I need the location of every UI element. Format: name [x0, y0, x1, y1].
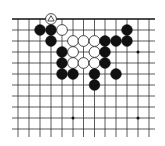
black-stone [46, 25, 57, 36]
black-stone [57, 58, 68, 69]
white-stone [89, 36, 100, 47]
black-stone [57, 69, 68, 80]
black-stone [46, 36, 57, 47]
black-stone [68, 69, 79, 80]
white-stone [89, 58, 100, 69]
white-stone [57, 25, 68, 36]
white-stone [89, 47, 100, 58]
black-stone [89, 69, 100, 80]
black-stone [122, 25, 133, 36]
white-stone [68, 58, 79, 69]
go-board [0, 0, 165, 146]
white-stone [68, 47, 79, 58]
black-stone [100, 47, 111, 58]
white-stone [78, 58, 89, 69]
black-stone [122, 36, 133, 47]
black-stone [111, 69, 122, 80]
black-stone [111, 36, 122, 47]
go-board-canvas [0, 0, 165, 146]
star-point [72, 117, 75, 120]
white-stone [68, 36, 79, 47]
black-stone [35, 25, 46, 36]
black-stone [100, 36, 111, 47]
black-stone [89, 80, 100, 91]
black-stone [100, 58, 111, 69]
star-point [137, 51, 140, 54]
star-point [137, 117, 140, 120]
black-stone [57, 47, 68, 58]
white-stone [78, 36, 89, 47]
